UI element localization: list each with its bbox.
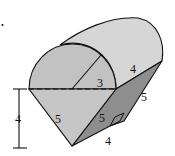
geometry-figure: 3 4 5 5 5 4 4 (0, 0, 175, 156)
marker-dot (2, 24, 4, 26)
front-slant-label: 5 (55, 112, 61, 126)
radius-label: 3 (97, 76, 103, 90)
bottom-length-label: 4 (105, 134, 111, 148)
inner-slant-label: 5 (99, 111, 105, 125)
cylinder-length-label: 4 (130, 62, 136, 76)
height-label: 4 (15, 112, 21, 126)
right-slant-label: 5 (141, 90, 147, 104)
